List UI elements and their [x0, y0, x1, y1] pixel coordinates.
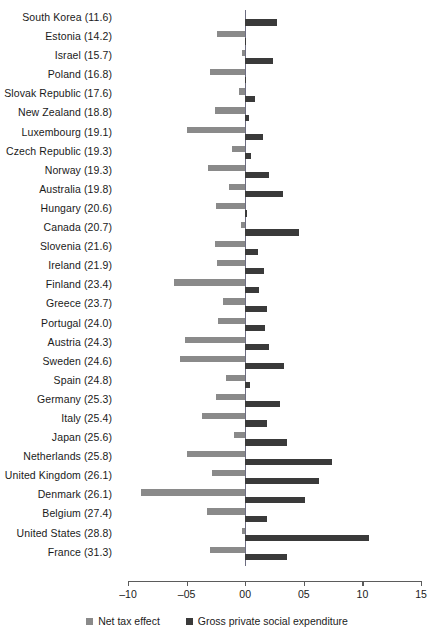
bar-net-tax-effect [210, 69, 245, 75]
bar-gross-private-social-expenditure [245, 439, 287, 445]
chart-row: Ireland (21.9) [0, 258, 434, 277]
chart-row: Austria (24.3) [0, 335, 434, 354]
x-axis-tick-label: 10 [357, 588, 369, 600]
chart-row: Poland (16.8) [0, 67, 434, 86]
bar-gross-private-social-expenditure [245, 210, 247, 216]
category-label: Sweden (24.6) [42, 355, 112, 367]
bar-gross-private-social-expenditure [245, 268, 264, 274]
chart-row: Israel (15.7) [0, 48, 434, 67]
category-label: Canada (20.7) [44, 221, 112, 233]
chart-row: Norway (19.3) [0, 163, 434, 182]
legend-label: Gross private social expenditure [198, 615, 348, 627]
category-label: Italy (25.4) [61, 412, 112, 424]
x-axis-tick [128, 581, 129, 586]
chart-row: Slovak Republic (17.6) [0, 86, 434, 105]
chart-row: France (31.3) [0, 545, 434, 564]
chart-row: Greece (23.7) [0, 296, 434, 315]
bar-net-tax-effect [207, 508, 246, 514]
category-label: France (31.3) [48, 546, 112, 558]
bar-net-tax-effect [234, 432, 246, 438]
chart-row: Italy (25.4) [0, 411, 434, 430]
category-label: Finland (23.4) [46, 278, 112, 290]
bar-net-tax-effect [242, 528, 246, 534]
bar-gross-private-social-expenditure [245, 153, 251, 159]
bar-gross-private-social-expenditure [245, 115, 249, 121]
chart-root: South Korea (11.6)Estonia (14.2)Israel (… [0, 0, 434, 641]
chart-row: South Korea (11.6) [0, 10, 434, 29]
category-label: Czech Republic (19.3) [6, 145, 112, 157]
bar-net-tax-effect [216, 394, 245, 400]
legend-item: Net tax effect [86, 615, 160, 627]
bar-gross-private-social-expenditure [245, 363, 284, 369]
bar-gross-private-social-expenditure [245, 325, 265, 331]
category-label: Belgium (27.4) [42, 507, 112, 519]
chart-row: Germany (25.3) [0, 392, 434, 411]
chart-row: Sweden (24.6) [0, 354, 434, 373]
bar-net-tax-effect [226, 375, 245, 381]
bar-gross-private-social-expenditure [245, 478, 319, 484]
chart-row: Estonia (14.2) [0, 29, 434, 48]
bar-gross-private-social-expenditure [245, 191, 283, 197]
chart-row: New Zealand (18.8) [0, 105, 434, 124]
x-axis-tick-label: 00 [239, 588, 251, 600]
x-axis-tick-label: –10 [119, 588, 137, 600]
x-axis-tick [362, 581, 363, 586]
category-label: New Zealand (18.8) [18, 106, 112, 118]
bar-gross-private-social-expenditure [245, 554, 287, 560]
bar-net-tax-effect [202, 413, 245, 419]
bar-net-tax-effect [218, 318, 245, 324]
bar-gross-private-social-expenditure [245, 96, 254, 102]
bar-gross-private-social-expenditure [245, 516, 267, 522]
chart-row: Hungary (20.6) [0, 201, 434, 220]
category-label: Austria (24.3) [48, 336, 112, 348]
chart-row: United Kingdom (26.1) [0, 468, 434, 487]
chart-row: Finland (23.4) [0, 277, 434, 296]
category-label: United Kingdom (26.1) [5, 469, 112, 481]
chart-row: Denmark (26.1) [0, 487, 434, 506]
bar-net-tax-effect [215, 107, 246, 113]
chart-row: Luxembourg (19.1) [0, 125, 434, 144]
chart-legend: Net tax effectGross private social expen… [0, 615, 434, 627]
bar-net-tax-effect [242, 50, 246, 56]
chart-row: Canada (20.7) [0, 220, 434, 239]
chart-row: Spain (24.8) [0, 373, 434, 392]
chart-row: Czech Republic (19.3) [0, 144, 434, 163]
bar-gross-private-social-expenditure [245, 497, 305, 503]
category-label: Germany (25.3) [37, 393, 112, 405]
chart-row: United States (28.8) [0, 526, 434, 545]
bar-gross-private-social-expenditure [245, 459, 332, 465]
bar-net-tax-effect [187, 451, 246, 457]
bar-gross-private-social-expenditure [245, 19, 277, 25]
category-label: Poland (16.8) [48, 68, 112, 80]
bar-gross-private-social-expenditure [245, 401, 280, 407]
category-label: Hungary (20.6) [41, 202, 112, 214]
bar-gross-private-social-expenditure [245, 58, 273, 64]
bar-gross-private-social-expenditure [245, 38, 246, 44]
bar-gross-private-social-expenditure [245, 249, 258, 255]
category-label: Norway (19.3) [45, 164, 112, 176]
category-label: Netherlands (25.8) [23, 450, 112, 462]
category-label: Australia (19.8) [39, 183, 112, 195]
x-axis-tick-label: –05 [178, 588, 196, 600]
bar-net-tax-effect [217, 260, 245, 266]
legend-item: Gross private social expenditure [186, 615, 348, 627]
chart-row: Portugal (24.0) [0, 316, 434, 335]
bar-rows-container: South Korea (11.6)Estonia (14.2)Israel (… [0, 10, 434, 564]
bar-net-tax-effect [185, 337, 245, 343]
bar-gross-private-social-expenditure [245, 420, 267, 426]
category-label: Israel (15.7) [55, 49, 112, 61]
bar-net-tax-effect [208, 165, 246, 171]
bar-net-tax-effect [212, 470, 245, 476]
chart-row: Belgium (27.4) [0, 506, 434, 525]
category-label: Denmark (26.1) [38, 488, 112, 500]
bar-gross-private-social-expenditure [245, 134, 263, 140]
x-axis-tick [421, 581, 422, 586]
bar-net-tax-effect [215, 241, 246, 247]
bar-net-tax-effect [174, 279, 246, 285]
category-label: Japan (25.6) [52, 431, 112, 443]
bar-gross-private-social-expenditure [245, 77, 246, 83]
category-label: Estonia (14.2) [45, 30, 112, 42]
bar-gross-private-social-expenditure [245, 229, 299, 235]
bar-net-tax-effect [187, 127, 246, 133]
bar-net-tax-effect [180, 356, 246, 362]
